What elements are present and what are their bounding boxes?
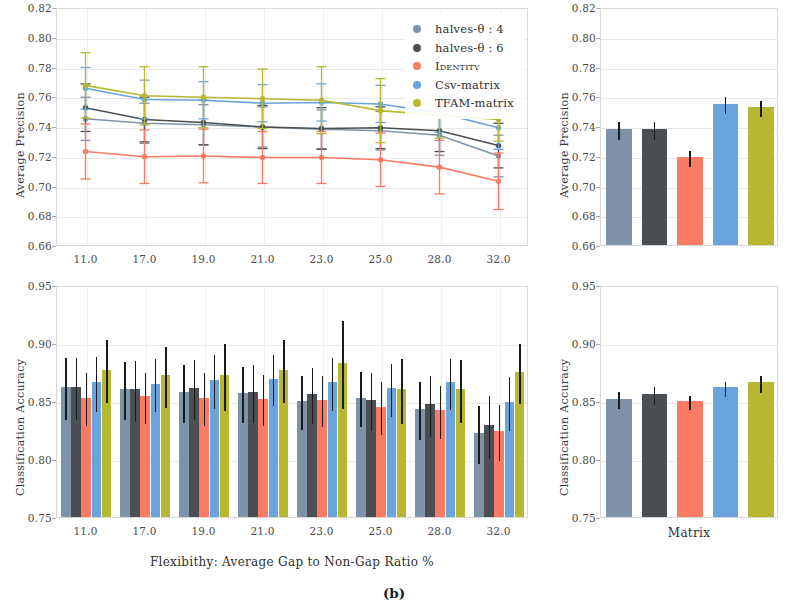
y-tick-label: 0.75 [28,512,52,524]
bar [748,382,774,517]
data-point-marker [142,93,147,98]
bar [606,399,632,517]
panel-bottom-left-bar-chart: Classification Accuracy 0.950.900.850.80… [0,278,540,568]
legend-label: halves-θ : 6 [435,41,504,55]
x-axis-label-bottom-left: Flexibithy: Average Gap to Non-Gap Ratio… [150,555,434,569]
grid-line [601,39,777,40]
plot-area-bottom-left [56,286,528,518]
y-tick-label: 0.90 [572,338,596,350]
error-bar [478,406,480,464]
error-bar [124,362,126,420]
y-tick-label: 0.74 [572,121,596,133]
data-point-marker [83,149,88,154]
error-bar [725,97,727,114]
error-bar [360,372,362,428]
data-point-marker [201,95,206,100]
x-tick-label: 28.0 [427,525,451,537]
bar [713,387,739,517]
error-bar [106,340,108,403]
line-series [86,152,499,182]
y-tick-label: 0.85 [28,396,52,408]
y-tick-label: 0.90 [28,338,52,350]
error-bar [654,387,656,404]
legend-item[interactable]: halves-θ : 6 [413,39,514,58]
legend-marker-icon [413,44,421,52]
bar [748,107,774,245]
data-point-marker [496,179,501,184]
legend-marker-icon [413,81,421,89]
legend-top-left: halves-θ : 4halves-θ : 6IdentityCsv-matr… [405,14,524,119]
grid-line [601,345,777,346]
panel-top-right-bar-chart: Average Precision 0.820.800.780.760.740.… [540,0,788,275]
legend-item[interactable]: TFAM-matrix [413,94,514,113]
y-tick-label: 0.85 [572,396,596,408]
y-tick-mark [52,518,56,519]
legend-item[interactable]: halves-θ : 4 [413,20,514,39]
error-bar [760,376,762,392]
legend-label: halves-θ : 4 [435,22,504,36]
figure-caption: (b) [0,585,788,601]
y-tick-mark [596,518,600,519]
error-bar [253,365,255,423]
error-bar [618,122,620,139]
data-point-marker [260,96,265,101]
y-tick-label: 0.80 [572,454,596,466]
legend-item[interactable]: Csv-matrix [413,76,514,95]
data-point-marker [142,154,147,159]
error-bar [135,361,137,421]
y-tick-label: 0.80 [28,454,52,466]
error-bar [618,392,620,409]
figure-panel-b: Average Precision 0.820.800.780.760.740.… [0,0,788,613]
y-axis-label-bottom-right: Classification Accuracy [558,359,571,496]
error-bar [96,357,98,413]
error-bar [489,396,491,459]
y-tick-label: 0.72 [572,151,596,163]
y-tick-label: 0.76 [572,91,596,103]
y-tick-label: 0.75 [572,512,596,524]
y-tick-label: 0.66 [572,240,596,252]
legend-marker-icon [413,62,421,70]
error-bar [204,373,206,426]
error-bar [391,364,393,417]
legend-marker-icon [413,25,421,33]
data-point-marker [319,98,324,103]
bar [606,129,632,245]
error-bar [725,382,727,397]
data-point-marker [378,157,383,162]
error-bar [312,368,314,424]
error-bar [242,367,244,423]
legend-item[interactable]: Identity [413,57,514,76]
legend-label: Identity [435,59,480,73]
error-bar [440,386,442,439]
legend-marker-icon [413,99,421,107]
grid-line [601,69,777,70]
plot-area-bottom-right [600,286,778,518]
data-point-marker [319,155,324,160]
error-bar [419,382,421,440]
bar [677,401,703,517]
y-tick-mark [596,246,600,247]
data-point-marker [378,108,383,113]
error-bar [430,376,432,436]
error-bar [499,405,501,461]
y-tick-label: 0.80 [572,32,596,44]
bar [642,129,668,245]
error-bar [519,344,521,404]
error-bar [371,373,373,431]
error-bar [760,101,762,117]
error-bar [214,355,216,408]
y-tick-label: 0.82 [572,2,596,14]
error-bar [689,396,691,410]
error-bar [224,344,226,411]
y-axis-label-top-right: Average Precision [558,92,571,198]
plot-area-top-right [600,8,778,246]
x-tick-label: 21.0 [250,525,274,537]
data-point-marker [260,155,265,160]
legend-label: Csv-matrix [435,78,500,92]
error-bar [263,375,265,426]
error-bar [301,376,303,429]
y-tick-label: 0.95 [28,280,52,292]
data-point-marker [83,83,88,88]
error-bar [194,360,196,420]
error-bar [401,359,403,424]
